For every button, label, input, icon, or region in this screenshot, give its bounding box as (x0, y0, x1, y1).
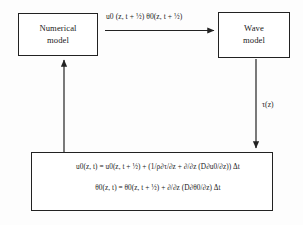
edge-label-wave-to-equations: τ(z) (262, 100, 274, 109)
edge-label-numerical-to-wave: u0 (z, t + ½) θ0(z, t + ½) (106, 12, 182, 21)
node-wave-model-label: Wave model (243, 23, 265, 46)
diagram-canvas: Numerical model Wave model u0 (z, t + ½)… (0, 0, 303, 225)
node-wave-model[interactable]: Wave model (218, 12, 290, 58)
equation-line-2: θ0(z, t) = θ0(z, t + ½) + ∂/∂z (D∂θ0/∂z)… (44, 184, 272, 192)
equation-line-1: u0(z, t) = u0(z, t + ½) + (1/ρ∂τ/∂z + ∂/… (44, 163, 272, 171)
node-numerical-model[interactable]: Numerical model (18, 13, 98, 56)
node-equations-box[interactable]: u0(z, t) = u0(z, t + ½) + (1/ρ∂τ/∂z + ∂/… (31, 152, 273, 211)
node-numerical-model-label: Numerical model (39, 23, 76, 46)
